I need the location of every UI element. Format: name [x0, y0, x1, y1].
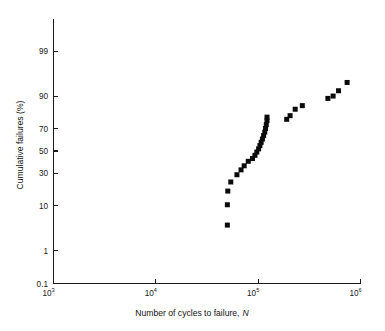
data-point-22: [288, 113, 293, 118]
y-tick-label-6: 1: [43, 247, 48, 256]
y-tick-label-1: 90: [39, 92, 49, 101]
data-point-0: [225, 223, 230, 228]
x-tick-label-2: 105: [247, 287, 259, 298]
y-tick-label-0: 99: [39, 47, 49, 56]
axes: [54, 19, 361, 284]
x-tick-label-1: 104: [145, 287, 157, 298]
data-point-23: [293, 107, 298, 112]
x-tick-label-3: 106: [349, 287, 361, 298]
data-point-6: [242, 163, 247, 168]
x-axis-title-symbol: N: [242, 308, 249, 318]
y-tick-label-3: 50: [39, 147, 49, 156]
data-point-28: [345, 80, 350, 85]
x-axis-title: Number of cycles to failure,N: [135, 308, 249, 318]
data-points: [225, 80, 350, 228]
data-point-20: [265, 115, 270, 120]
y-tick-label-2: 70: [39, 125, 49, 134]
x-axis-ticks: 103104105106: [42, 279, 361, 298]
data-point-24: [300, 103, 305, 108]
axis-spine: [54, 19, 361, 284]
y-axis-title: Cumulative failures (%): [15, 100, 25, 189]
x-axis-title-main: Number of cycles to failure,: [135, 308, 239, 318]
data-point-1: [225, 202, 230, 207]
y-tick-label-4: 30: [39, 169, 49, 178]
y-axis-ticks: 99907050301010.1: [37, 47, 58, 288]
data-point-3: [228, 179, 233, 184]
chart-canvas: 103104105106 99907050301010.1 Number of …: [0, 0, 385, 331]
data-point-2: [225, 189, 230, 194]
data-point-26: [331, 94, 336, 99]
y-tick-label-7: 0.1: [37, 280, 49, 289]
data-point-27: [336, 88, 341, 93]
data-point-25: [325, 96, 330, 101]
data-point-4: [234, 172, 239, 177]
y-tick-label-5: 10: [39, 202, 49, 211]
probability-plot-figure: 103104105106 99907050301010.1 Number of …: [0, 0, 385, 331]
